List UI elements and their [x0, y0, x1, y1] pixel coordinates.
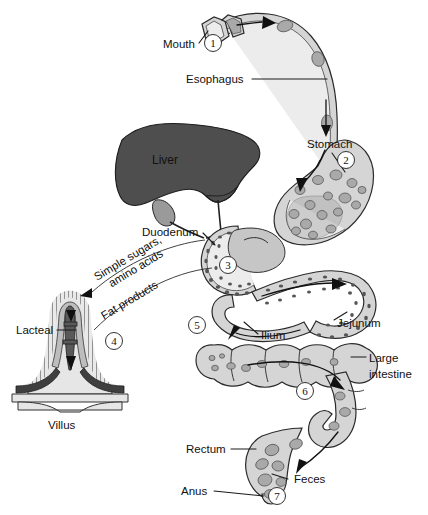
- callout-1[interactable]: 1: [205, 35, 222, 52]
- large-intestine-line1: Large: [369, 352, 398, 364]
- diagram-canvas: Liver: [0, 0, 428, 515]
- villus-label: Villus: [48, 419, 76, 431]
- simple-sugars-label-group: Simple sugars, amino acids: [92, 233, 170, 294]
- callout-4-value: 4: [111, 335, 117, 347]
- rectum-arrow: [296, 459, 307, 474]
- fat-products-label: Fat products: [99, 278, 160, 321]
- lacteal-label: Lacteal: [16, 324, 53, 336]
- stomach-group: [274, 140, 373, 245]
- liver-group: Liver: [115, 124, 259, 242]
- callout-5-value: 5: [194, 319, 200, 331]
- mouth-label: Mouth: [163, 38, 195, 50]
- callout-1-value: 1: [210, 37, 216, 49]
- jejunum-label: Jejunum: [337, 317, 380, 329]
- feces-label: Feces: [294, 473, 326, 485]
- hepatic-duct: [218, 200, 221, 232]
- callout-6-value: 6: [302, 385, 308, 397]
- callout-5[interactable]: 5: [189, 317, 206, 334]
- callout-3-value: 3: [225, 259, 231, 271]
- ilium-label: Ilium: [261, 329, 285, 341]
- serosa-layer: [18, 402, 122, 412]
- large-intestine-line2: intestine: [369, 368, 412, 380]
- rectum-label: Rectum: [186, 443, 226, 455]
- callout-6[interactable]: 6: [297, 383, 314, 400]
- callout-2[interactable]: 2: [338, 152, 355, 169]
- callout-7-value: 7: [274, 490, 280, 502]
- fat-products-label-group: Fat products: [99, 278, 160, 321]
- callout-3[interactable]: 3: [220, 257, 237, 274]
- liver-label: Liver: [152, 153, 178, 167]
- lacteal-strut-2: [63, 340, 77, 344]
- submucosa-layer: [12, 394, 128, 402]
- anus-label: Anus: [181, 485, 207, 497]
- callout-2-value: 2: [343, 154, 349, 166]
- esophagus-label: Esophagus: [186, 73, 244, 85]
- stomach-label: Stomach: [307, 138, 352, 150]
- callout-4[interactable]: 4: [106, 333, 123, 350]
- lacteal-strut-1: [64, 322, 77, 326]
- digestive-system-figure: Liver: [0, 0, 428, 515]
- callout-7[interactable]: 7: [269, 488, 286, 505]
- liver-shape: [115, 124, 259, 206]
